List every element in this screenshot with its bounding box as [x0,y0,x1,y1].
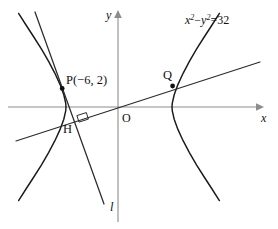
normal-line-group [35,12,104,204]
point-dot-Q [170,84,175,89]
labels-group: P(−6, 2) Q H O x y l x2−y2=32 [63,8,267,214]
secant-line-group [16,62,260,141]
label-equation: x2−y2=32 [184,13,229,27]
point-dot-P [60,86,65,91]
hyperbola-figure: P(−6, 2) Q H O x y l x2−y2=32 [0,0,278,229]
label-x-axis: x [260,111,267,125]
label-y-axis: y [105,8,112,22]
eq-rhs: 32 [217,13,229,27]
line-l [35,12,104,204]
label-point-H: H [63,122,72,136]
label-origin: O [122,111,131,125]
axes-group [8,10,264,222]
y-axis-arrow-icon [114,10,122,18]
secant-line [16,62,260,141]
right-angle-marker [77,113,89,123]
label-line-l: l [110,200,114,214]
right-angle-icon [77,113,89,123]
x-axis-arrow-icon [256,103,264,111]
figure-canvas: P(−6, 2) Q H O x y l x2−y2=32 [0,0,278,229]
label-point-Q: Q [163,68,172,82]
label-point-P: P(−6, 2) [66,73,107,87]
